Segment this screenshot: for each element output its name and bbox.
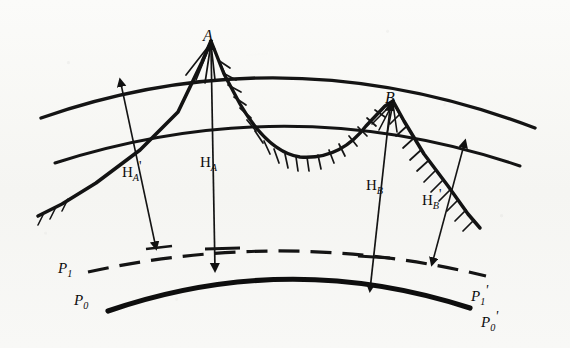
height-label-base: H bbox=[366, 177, 377, 193]
surface-label-sub: 1 bbox=[67, 268, 72, 279]
height-label-HA: HA bbox=[200, 150, 217, 173]
terrain-profile bbox=[38, 41, 480, 231]
lower-reference-arc bbox=[55, 102, 520, 166]
height-label-base: H bbox=[422, 192, 433, 208]
height-label-prime: ' bbox=[439, 187, 442, 202]
height-label-HB: HB bbox=[366, 173, 383, 196]
height-label-HA-prime: HA' bbox=[122, 160, 142, 183]
surface-label-prime: ' bbox=[485, 283, 488, 298]
height-label-HB-prime: HB' bbox=[422, 188, 442, 211]
surface-label-prime: ' bbox=[495, 309, 498, 324]
height-label-base: H bbox=[122, 164, 133, 180]
point-label-B: B bbox=[385, 90, 395, 106]
height-label-base: H bbox=[200, 154, 211, 170]
upper-reference-arc bbox=[41, 54, 535, 128]
surface-label-P0-prime: P0' bbox=[481, 310, 498, 333]
point-label-A: A bbox=[203, 28, 213, 44]
measure-line-HB bbox=[358, 108, 390, 290]
surface-label-base: P bbox=[74, 292, 83, 308]
surface-label-base: P bbox=[481, 314, 490, 330]
surface-label-sub: 0 bbox=[83, 300, 88, 311]
p0-geoid-arc bbox=[108, 279, 470, 311]
surface-label-base: P bbox=[58, 260, 67, 276]
surface-label-P1-prime: P1' bbox=[471, 284, 488, 307]
surface-label-P1: P1 bbox=[58, 256, 72, 279]
surface-label-base: P bbox=[471, 288, 480, 304]
height-label-sub: B bbox=[377, 185, 383, 196]
height-label-sub: A bbox=[211, 162, 217, 173]
figure-root: A B HA' HA HB HB' P1 P0 P1' P0' bbox=[0, 0, 570, 348]
p1-dashed-arc bbox=[88, 251, 486, 276]
height-label-prime: ' bbox=[139, 159, 142, 174]
surface-label-P0: P0 bbox=[74, 288, 88, 311]
